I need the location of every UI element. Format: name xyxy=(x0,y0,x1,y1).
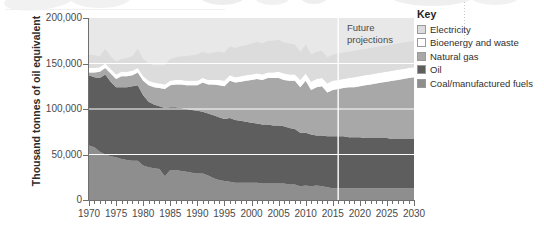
scan-blotch xyxy=(300,0,328,4)
x-axis-minor-tick xyxy=(203,201,204,204)
x-axis-minor-tick xyxy=(132,201,133,204)
y-axis-tick-mark xyxy=(83,200,88,201)
x-axis-minor-tick xyxy=(344,201,345,204)
x-axis-minor-tick xyxy=(105,201,106,204)
legend-swatch-icon xyxy=(417,65,426,74)
x-axis-minor-tick xyxy=(262,201,263,204)
x-axis-minor-tick xyxy=(392,201,393,204)
x-axis-major-tick xyxy=(116,201,117,206)
x-axis-major-tick xyxy=(333,201,334,206)
legend-items: ElectricityBioenergy and wasteNatural ga… xyxy=(417,23,543,89)
x-axis-minor-tick xyxy=(349,201,350,204)
y-axis-tick-label: 200,000 xyxy=(4,12,82,23)
future-projections-line1: Future xyxy=(347,22,407,34)
legend-swatch-icon xyxy=(417,52,426,61)
x-axis-minor-tick xyxy=(235,201,236,204)
legend-item-label: Coal/manufactured fuels xyxy=(430,78,533,89)
x-axis-major-tick xyxy=(197,201,198,206)
x-axis-major-tick xyxy=(252,201,253,206)
scan-blotch xyxy=(200,0,245,5)
x-axis-minor-tick xyxy=(159,201,160,204)
x-axis-minor-tick xyxy=(338,201,339,204)
x-axis-major-tick xyxy=(143,201,144,206)
x-axis-minor-tick xyxy=(327,201,328,204)
y-axis-tick-label: 100,000 xyxy=(4,103,82,114)
x-axis-minor-tick xyxy=(257,201,258,204)
x-axis-minor-tick xyxy=(382,201,383,204)
x-axis-minor-tick xyxy=(111,201,112,204)
legend-item[interactable]: Natural gas xyxy=(417,50,543,62)
x-axis-minor-tick xyxy=(322,201,323,204)
x-axis-minor-tick xyxy=(176,201,177,204)
y-axis-tick-mark xyxy=(83,109,88,110)
x-axis-tick-label: 2030 xyxy=(394,208,434,219)
x-axis-minor-tick xyxy=(289,201,290,204)
x-axis-minor-tick xyxy=(284,201,285,204)
scan-blotch xyxy=(470,0,520,5)
x-axis-minor-tick xyxy=(311,201,312,204)
legend-swatch-icon xyxy=(417,25,426,34)
scan-blotch xyxy=(392,0,472,6)
x-axis-major-tick xyxy=(306,201,307,206)
x-axis-minor-tick xyxy=(409,201,410,204)
legend-item[interactable]: Coal/manufactured fuels xyxy=(417,77,543,89)
legend-item[interactable]: Oil xyxy=(417,64,543,76)
x-axis-minor-tick xyxy=(138,201,139,204)
x-axis-major-tick xyxy=(360,201,361,206)
x-axis-major-tick xyxy=(89,201,90,206)
y-axis-tick-label: 0 xyxy=(4,194,82,205)
x-axis-minor-tick xyxy=(219,201,220,204)
x-axis-minor-tick xyxy=(149,201,150,204)
legend-swatch-icon xyxy=(417,38,426,47)
x-axis-minor-tick xyxy=(403,201,404,204)
x-axis-minor-tick xyxy=(268,201,269,204)
stacked-area-svg xyxy=(89,18,414,200)
chart-plot-area xyxy=(89,18,414,200)
y-axis-tick-label: 150,000 xyxy=(4,58,82,69)
x-axis-minor-tick xyxy=(295,201,296,204)
future-projections-annotation: Future projections xyxy=(347,22,407,45)
x-axis-minor-tick xyxy=(398,201,399,204)
x-axis-minor-tick xyxy=(154,201,155,204)
x-axis-major-tick xyxy=(224,201,225,206)
x-axis-minor-tick xyxy=(241,201,242,204)
x-axis-minor-tick xyxy=(300,201,301,204)
legend-item-label: Natural gas xyxy=(430,51,479,62)
y-axis-tick-labels: 050,000100,000150,000200,000 xyxy=(0,0,82,242)
x-axis-major-tick xyxy=(414,201,415,206)
x-axis-minor-tick xyxy=(100,201,101,204)
x-axis-major-tick xyxy=(279,201,280,206)
x-axis-major-tick xyxy=(387,201,388,206)
x-axis-minor-tick xyxy=(273,201,274,204)
legend-item-label: Bioenergy and waste xyxy=(430,37,519,48)
scan-blotch xyxy=(255,0,290,5)
legend-item[interactable]: Bioenergy and waste xyxy=(417,37,543,49)
legend-swatch-icon xyxy=(417,79,426,88)
x-axis-minor-tick xyxy=(246,201,247,204)
x-axis-major-tick xyxy=(170,201,171,206)
future-projections-line2: projections xyxy=(347,34,407,46)
x-axis-minor-tick xyxy=(208,201,209,204)
y-axis-tick-label: 50,000 xyxy=(4,149,82,160)
legend-item[interactable]: Electricity xyxy=(417,23,543,35)
x-axis-minor-tick xyxy=(230,201,231,204)
x-axis-tick-labels: 1970197519801985199019952000200520102015… xyxy=(0,208,544,224)
x-axis-minor-tick xyxy=(214,201,215,204)
x-axis-minor-tick xyxy=(376,201,377,204)
x-axis-minor-tick xyxy=(187,201,188,204)
x-axis-minor-tick xyxy=(365,201,366,204)
x-axis-ticks xyxy=(89,201,414,207)
legend-item-label: Electricity xyxy=(430,24,471,35)
legend-title: Key xyxy=(417,8,543,20)
x-axis-minor-tick xyxy=(165,201,166,204)
x-axis-minor-tick xyxy=(94,201,95,204)
legend: Key ElectricityBioenergy and wasteNatura… xyxy=(417,8,543,91)
x-axis-minor-tick xyxy=(317,201,318,204)
y-axis-tick-mark xyxy=(83,64,88,65)
x-axis-minor-tick xyxy=(181,201,182,204)
x-axis-minor-tick xyxy=(354,201,355,204)
x-axis-minor-tick xyxy=(127,201,128,204)
legend-item-label: Oil xyxy=(430,64,442,75)
x-axis-minor-tick xyxy=(192,201,193,204)
x-axis-minor-tick xyxy=(371,201,372,204)
